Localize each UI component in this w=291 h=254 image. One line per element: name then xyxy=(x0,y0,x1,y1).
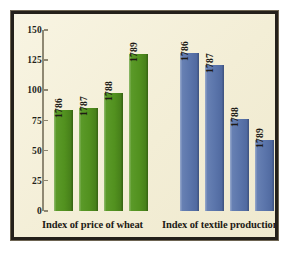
y-tick-label: 100 xyxy=(27,85,42,95)
y-tick-label: 0 xyxy=(37,206,42,216)
bar-wheat-1787[interactable]: 1787 xyxy=(79,108,98,211)
bar-slot: 1788 xyxy=(230,30,249,211)
bar-textile-1789[interactable]: 1789 xyxy=(255,140,274,211)
bar-year-label: 1788 xyxy=(230,107,240,127)
bar-wheat-1786[interactable]: 1786 xyxy=(54,110,73,211)
y-tick-label: 75 xyxy=(32,116,42,126)
bar-slot: 1786 xyxy=(180,30,199,211)
bar-year-label: 1786 xyxy=(54,98,64,118)
figure-root: 0255075100125150 1786178717881789 178617… xyxy=(0,0,291,254)
bar-slot: 1787 xyxy=(205,30,224,211)
bar-year-label: 1786 xyxy=(180,41,190,61)
bar-slot: 1788 xyxy=(104,30,123,211)
y-tick-label: 125 xyxy=(27,55,42,65)
chart-frame: 0255075100125150 1786178717881789 178617… xyxy=(11,11,278,240)
bar-slot: 1787 xyxy=(79,30,98,211)
bar-year-label: 1788 xyxy=(104,81,114,101)
bar-group-wheat: 1786178717881789 xyxy=(54,30,148,211)
bar-textile-1786[interactable]: 1786 xyxy=(180,53,199,211)
bar-slot: 1789 xyxy=(255,30,274,211)
y-tick-label: 50 xyxy=(32,146,42,156)
y-tick-label: 150 xyxy=(27,25,42,35)
y-tick-label: 25 xyxy=(32,176,42,186)
y-axis-tick-labels: 0255075100125150 xyxy=(14,14,42,237)
bar-wheat-1788[interactable]: 1788 xyxy=(104,93,123,211)
bar-year-label: 1787 xyxy=(205,53,215,73)
bar-year-label: 1789 xyxy=(255,128,265,148)
plot-area: 1786178717881789 1786178717881789 xyxy=(44,30,271,211)
bar-textile-1787[interactable]: 1787 xyxy=(205,65,224,211)
bar-slot: 1789 xyxy=(129,30,148,211)
bar-year-label: 1789 xyxy=(129,42,139,62)
bar-group-textile: 1786178717881789 xyxy=(180,30,274,211)
bar-textile-1788[interactable]: 1788 xyxy=(230,119,249,211)
chart-plate: 0255075100125150 1786178717881789 178617… xyxy=(14,14,275,237)
group-caption-textile: Index of textile production xyxy=(162,219,275,230)
bar-wheat-1789[interactable]: 1789 xyxy=(129,54,148,211)
group-caption-wheat: Index of price of wheat xyxy=(42,219,143,230)
bar-year-label: 1787 xyxy=(79,97,89,117)
bar-slot: 1786 xyxy=(54,30,73,211)
